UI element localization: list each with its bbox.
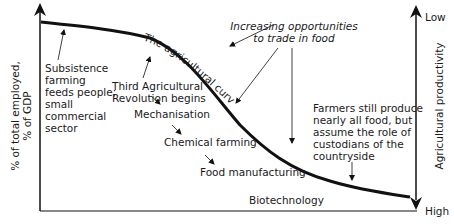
annotation-line: Subsistence [45, 62, 116, 74]
annotation-line: custodians of the [313, 138, 423, 150]
stage-food-manufacturing: Food manufacturing [200, 166, 306, 178]
annotation-line: sector [45, 122, 116, 134]
right-axis-label: Agricultural productivity [433, 41, 445, 171]
custodians-annotation: Farmers still produce nearly all food, b… [313, 102, 423, 162]
annotation-line: farming [45, 74, 116, 86]
third-revolution-arrow [143, 57, 150, 78]
annotation-line: feeds people; [45, 86, 116, 98]
trade-arrow-lower [236, 48, 278, 103]
annotation-line: Revolution begins [112, 92, 206, 104]
trade-annotation: Increasing opportunities to trade in foo… [229, 20, 359, 44]
subsistence-annotation: Subsistence farming feeds people; small … [45, 62, 116, 134]
annotation-line: commercial [45, 110, 116, 122]
chemical-farming-arrow [172, 125, 181, 134]
annotation-line: Increasing opportunities [229, 20, 359, 32]
stage-biotechnology: Biotechnology [249, 194, 324, 206]
annotation-line: to trade in food [229, 32, 359, 44]
third-revolution-annotation: Third Agricultural Revolution begins [112, 80, 206, 104]
right-axis-high-label: High [425, 205, 449, 217]
annotation-line: assume the role of [313, 126, 423, 138]
food-manufacturing-arrow [205, 155, 214, 164]
annotation-line: small [45, 98, 116, 110]
annotation-line: countryside [313, 150, 423, 162]
right-axis-low-label: Low [425, 11, 446, 23]
subsistence-arrow [58, 30, 64, 60]
stage-mechanisation: Mechanisation [134, 108, 210, 120]
left-axis-label-line1: % of total employed, [9, 51, 21, 181]
annotation-line: nearly all food, but [313, 114, 423, 126]
annotation-line: Third Agricultural [112, 80, 206, 92]
left-axis-label-line2: % of GDP [21, 51, 33, 181]
stage-chemical-farming: Chemical farming [164, 136, 257, 148]
left-axis-label: % of total employed, % of GDP [9, 51, 33, 181]
annotation-line: Farmers still produce [313, 102, 423, 114]
